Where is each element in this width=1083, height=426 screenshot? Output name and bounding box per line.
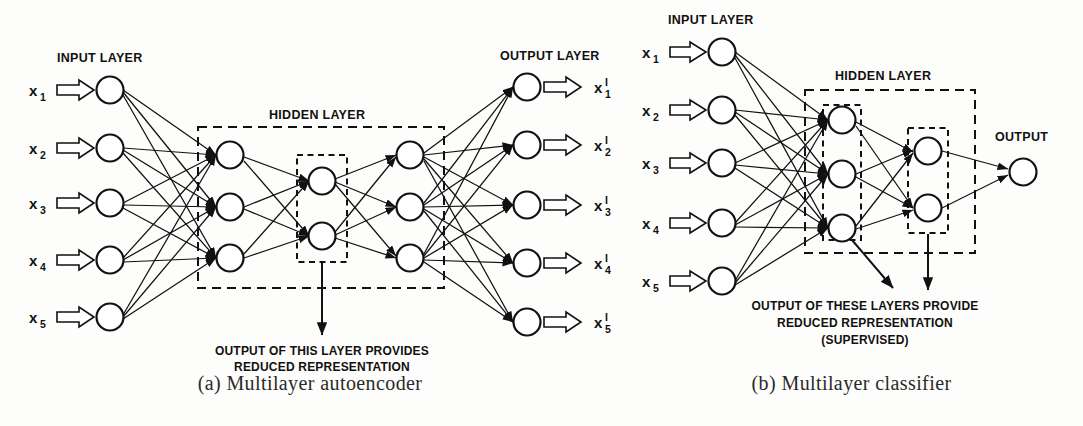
layer-hidden-1-nodes (829, 107, 856, 242)
hidden-1-annotation-arrow (852, 240, 893, 288)
node-bottleneck-2[interactable] (309, 223, 336, 250)
output-layer-heading: OUTPUT LAYER (500, 49, 600, 63)
edges-hidden2-to-output (424, 87, 513, 322)
node-decoder-hidden-1[interactable] (397, 142, 424, 169)
output-subscript-2: 2 (605, 146, 611, 158)
output-subscript-4: 4 (605, 264, 611, 276)
input-label-5: x (642, 273, 651, 290)
layer-decoder-hidden-nodes (397, 142, 424, 272)
caption-panel-b: (b) Multilayer classifier (620, 372, 1083, 395)
output-superscript-3: I (605, 194, 608, 206)
input-subscript-4: 4 (653, 224, 659, 236)
edges-bottleneck-to-hidden2 (335, 155, 396, 258)
input-label-3: x (642, 155, 651, 172)
node-encoder-hidden-3[interactable] (217, 245, 244, 272)
node-input-1[interactable] (709, 39, 736, 66)
input-layer-heading: INPUT LAYER (668, 13, 754, 27)
input-label-4: x (29, 252, 38, 269)
node-bottleneck-1[interactable] (309, 168, 336, 195)
input-label-2: x (642, 102, 651, 119)
input-label-3: x (29, 195, 38, 212)
edges-hidden1-to-hidden2 (856, 122, 913, 229)
node-hidden-1-1[interactable] (829, 107, 856, 134)
hidden-layer-heading: HIDDEN LAYER (835, 69, 931, 83)
output-label-5: x (594, 314, 603, 331)
node-input-5[interactable] (709, 268, 736, 295)
input-feed-arrows (670, 42, 706, 291)
node-input-3[interactable] (709, 150, 736, 177)
caption-panel-a: (a) Multilayer autoencoder (0, 372, 620, 395)
edges-input-to-hidden1 (735, 52, 828, 285)
layer-output-nodes (514, 74, 541, 336)
node-input-2[interactable] (709, 97, 736, 124)
edges-input-to-hidden1 (123, 90, 216, 319)
input-label-2: x (29, 140, 38, 157)
node-hidden-1-3[interactable] (829, 215, 856, 242)
output-subscript-3: 3 (605, 206, 611, 218)
node-input-4[interactable] (97, 247, 124, 274)
node-hidden-2-1[interactable] (915, 138, 942, 165)
node-output-2[interactable] (514, 132, 541, 159)
input-label-5: x (29, 309, 38, 326)
classifier-diagram: x 1 x 2 x 3 x 4 x 5 INPUT LAYER HIDDEN L… (620, 0, 1083, 372)
input-subscript-1: 1 (40, 91, 46, 103)
figure-canvas: x 1 x 2 x 3 x 4 x 5 x I 1 x I 2 x I (0, 0, 1083, 426)
input-variable-labels: x 1 x 2 x 3 x 4 x 5 (642, 44, 659, 294)
node-input-5[interactable] (97, 304, 124, 331)
input-layer-heading: INPUT LAYER (57, 51, 143, 65)
layer-bottleneck-nodes (309, 168, 336, 250)
node-output-4[interactable] (514, 250, 541, 277)
input-subscript-2: 2 (653, 111, 659, 123)
input-subscript-2: 2 (40, 149, 46, 161)
node-input-4[interactable] (709, 210, 736, 237)
output-label-1: x (594, 79, 603, 96)
node-output-1[interactable] (1010, 159, 1037, 186)
edges-hidden1-to-bottleneck (244, 157, 309, 258)
output-subscript-1: 1 (605, 88, 611, 100)
input-label-1: x (642, 44, 651, 61)
output-superscript-1: I (605, 76, 608, 88)
node-encoder-hidden-1[interactable] (217, 142, 244, 169)
input-subscript-3: 3 (653, 164, 659, 176)
node-encoder-hidden-2[interactable] (217, 194, 244, 221)
input-label-4: x (642, 215, 651, 232)
output-label-3: x (594, 197, 603, 214)
hidden-layer-heading: HIDDEN LAYER (269, 108, 365, 122)
annotation-line-3: (SUPERVISED) (821, 333, 909, 347)
annotation-line-2: REDUCED REPRESENTATION (777, 316, 953, 330)
node-output-1[interactable] (514, 74, 541, 101)
output-superscript-5: I (605, 311, 608, 323)
node-hidden-1-2[interactable] (829, 161, 856, 188)
node-input-3[interactable] (97, 190, 124, 217)
node-decoder-hidden-2[interactable] (397, 194, 424, 221)
annotation-line-1: OUTPUT OF THESE LAYERS PROVIDE (752, 299, 979, 313)
annotation-line-1: OUTPUT OF THIS LAYER PROVIDES (215, 344, 429, 358)
output-feed-arrows (544, 77, 581, 332)
node-output-3[interactable] (514, 192, 541, 219)
autoencoder-diagram: x 1 x 2 x 3 x 4 x 5 x I 1 x I 2 x I (0, 0, 620, 372)
output-label-4: x (594, 255, 603, 272)
input-feed-arrows (57, 80, 94, 327)
layer-encoder-hidden-nodes (217, 142, 244, 272)
panel-multilayer-autoencoder: x 1 x 2 x 3 x 4 x 5 x I 1 x I 2 x I (0, 0, 620, 426)
input-subscript-5: 5 (653, 282, 659, 294)
input-subscript-3: 3 (40, 204, 46, 216)
input-subscript-1: 1 (653, 53, 659, 65)
node-decoder-hidden-3[interactable] (397, 245, 424, 272)
input-variable-labels: x 1 x 2 x 3 x 4 x 5 (29, 82, 46, 330)
output-superscript-2: I (605, 134, 608, 146)
output-label-2: x (594, 137, 603, 154)
layer-input-nodes (97, 77, 124, 331)
node-input-1[interactable] (97, 77, 124, 104)
annotation-line-2: REDUCED REPRESENTATION (234, 360, 410, 372)
panel-multilayer-classifier: x 1 x 2 x 3 x 4 x 5 INPUT LAYER HIDDEN L… (620, 0, 1083, 426)
output-variable-labels: x I 1 x I 2 x I 3 x I 4 x I 5 (594, 76, 611, 335)
layer-input-nodes (709, 39, 736, 295)
input-label-1: x (29, 82, 38, 99)
input-subscript-4: 4 (40, 261, 46, 273)
layer-hidden-2-nodes (915, 138, 942, 222)
node-output-5[interactable] (514, 309, 541, 336)
node-input-2[interactable] (97, 135, 124, 162)
output-heading: OUTPUT (995, 130, 1048, 144)
node-hidden-2-2[interactable] (915, 195, 942, 222)
